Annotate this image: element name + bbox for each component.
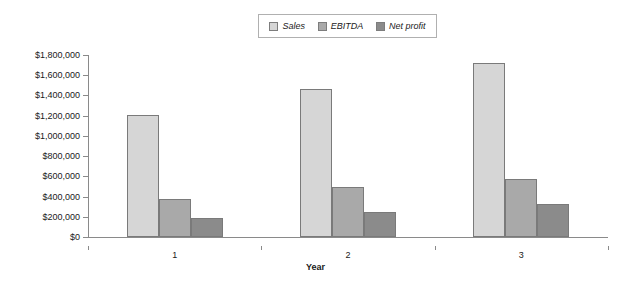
y-axis-tick-label: $400,000 bbox=[42, 192, 80, 201]
y-axis-tick-label: $600,000 bbox=[42, 172, 80, 181]
x-axis-tick-label: 2 bbox=[345, 251, 350, 260]
y-axis-tick-label: $0 bbox=[70, 233, 80, 242]
y-axis-tick bbox=[83, 176, 88, 177]
y-axis-tick bbox=[83, 136, 88, 137]
legend-swatch-sales bbox=[269, 22, 278, 31]
plot-area bbox=[88, 55, 608, 237]
legend-label-net-profit: Net profit bbox=[389, 22, 426, 31]
y-axis-tick-label: $1,200,000 bbox=[35, 111, 80, 120]
bar-net-profit-year-1[interactable] bbox=[191, 218, 223, 237]
y-axis-tick bbox=[83, 156, 88, 157]
bar-sales-year-1[interactable] bbox=[127, 115, 159, 237]
y-axis-tick-label: $1,600,000 bbox=[35, 71, 80, 80]
x-axis-tick bbox=[608, 246, 609, 250]
bar-net-profit-year-2[interactable] bbox=[364, 212, 396, 237]
y-axis-tick bbox=[83, 75, 88, 76]
y-axis-tick bbox=[83, 95, 88, 96]
y-axis-tick-label: $1,800,000 bbox=[35, 51, 80, 60]
bar-ebitda-year-1[interactable] bbox=[159, 199, 191, 237]
x-axis-tick-label: 1 bbox=[172, 251, 177, 260]
legend-label-ebitda: EBITDA bbox=[331, 22, 364, 31]
bar-chart: Sales EBITDA Net profit $0$200,000$400,0… bbox=[0, 0, 631, 287]
y-axis-tick-label: $800,000 bbox=[42, 152, 80, 161]
legend-entry-ebitda: EBITDA bbox=[318, 22, 364, 31]
y-axis-tick-label: $1,000,000 bbox=[35, 131, 80, 140]
y-axis-tick bbox=[83, 237, 88, 238]
bar-ebitda-year-2[interactable] bbox=[332, 187, 364, 237]
legend-entry-sales: Sales bbox=[269, 22, 305, 31]
bar-ebitda-year-3[interactable] bbox=[505, 179, 537, 237]
y-axis-tick-label: $200,000 bbox=[42, 212, 80, 221]
x-axis-title: Year bbox=[0, 262, 631, 272]
y-axis-tick-label: $1,400,000 bbox=[35, 91, 80, 100]
bar-net-profit-year-3[interactable] bbox=[537, 204, 569, 237]
x-axis-tick-labels: 123 bbox=[88, 246, 608, 258]
x-axis-line bbox=[88, 237, 608, 238]
y-axis-tick-labels: $0$200,000$400,000$600,000$800,000$1,000… bbox=[0, 55, 80, 237]
x-axis-tick bbox=[88, 246, 89, 250]
y-axis-line bbox=[88, 55, 89, 237]
x-axis-tick-label: 3 bbox=[519, 251, 524, 260]
x-axis-tick bbox=[261, 246, 262, 250]
y-axis-tick bbox=[83, 217, 88, 218]
chart-legend: Sales EBITDA Net profit bbox=[258, 14, 437, 38]
y-axis-tick bbox=[83, 55, 88, 56]
y-axis-tick bbox=[83, 197, 88, 198]
bar-sales-year-2[interactable] bbox=[300, 89, 332, 237]
bar-sales-year-3[interactable] bbox=[473, 63, 505, 237]
legend-swatch-ebitda bbox=[318, 22, 327, 31]
legend-swatch-net-profit bbox=[376, 22, 385, 31]
legend-label-sales: Sales bbox=[282, 22, 305, 31]
legend-entry-net-profit: Net profit bbox=[376, 22, 426, 31]
y-axis-tick bbox=[83, 116, 88, 117]
x-axis-tick bbox=[435, 246, 436, 250]
